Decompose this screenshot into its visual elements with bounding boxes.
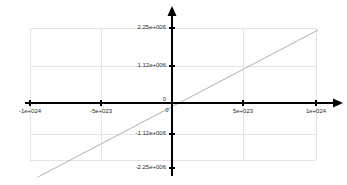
x-tick-label: -5e+023 bbox=[81, 108, 121, 115]
y-tick-label-origin: 0 bbox=[118, 96, 166, 103]
x-tick-label: -1e+024 bbox=[10, 108, 50, 115]
x-tick-label: 1e+024 bbox=[296, 108, 336, 115]
chart-container: -1e+024 -5e+023 0 5e+023 1e+024 2.25e+00… bbox=[0, 0, 347, 185]
chart-plot-area bbox=[0, 0, 347, 185]
x-tick-label-origin: 0 bbox=[162, 107, 172, 114]
x-tick-label: 5e+023 bbox=[223, 108, 263, 115]
y-tick-label: 1.12e+006 bbox=[118, 62, 166, 69]
y-tick-label: 2.25e+006 bbox=[118, 24, 166, 31]
y-tick-label: -2.25e+006 bbox=[118, 164, 166, 171]
y-tick-label: -1.12e+006 bbox=[118, 130, 166, 137]
